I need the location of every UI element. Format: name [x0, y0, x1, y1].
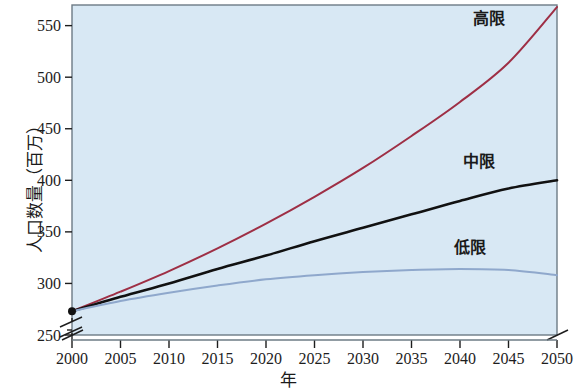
x-tick-label: 2050: [541, 350, 573, 367]
x-tick-label: 2040: [444, 350, 476, 367]
x-tick-label: 2000: [56, 350, 88, 367]
y-tick-label: 550: [37, 17, 61, 34]
x-tick-label: 2030: [347, 350, 379, 367]
x-axis-title: 年: [0, 366, 576, 391]
chart-svg: 250300350400450500550 200020052010201520…: [0, 0, 576, 392]
x-tick-label: 2005: [105, 350, 137, 367]
x-tick-label: 2010: [153, 350, 185, 367]
x-tick-label: 2035: [396, 350, 428, 367]
start-point-dot: [68, 307, 76, 315]
population-projection-chart: 250300350400450500550 200020052010201520…: [0, 0, 576, 392]
x-axis-ticks: 2000200520102015202020252030203520402045…: [56, 340, 573, 367]
start-point-marker: [68, 307, 76, 315]
x-tick-label: 2045: [493, 350, 525, 367]
y-axis-title: 人口数量（百万）: [21, 90, 46, 280]
series-label: 中限: [463, 152, 496, 171]
series-label: 低限: [453, 238, 487, 257]
x-tick-label: 2020: [250, 350, 282, 367]
y-tick-label: 500: [37, 69, 61, 86]
series-label: 高限: [473, 9, 506, 28]
x-tick-label: 2025: [299, 350, 331, 367]
y-tick-label: 250: [37, 327, 61, 344]
x-tick-label: 2015: [202, 350, 234, 367]
